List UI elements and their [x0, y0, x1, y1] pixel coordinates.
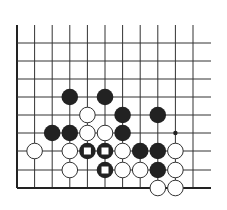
- white-stone[interactable]: [168, 180, 184, 196]
- black-stone[interactable]: [114, 107, 131, 124]
- stone-body: [115, 143, 131, 159]
- stone-body: [97, 125, 113, 141]
- stone-body: [132, 162, 148, 178]
- black-stone[interactable]: [150, 107, 167, 124]
- stone-body: [62, 162, 78, 178]
- board-grid: [17, 25, 211, 188]
- black-stone[interactable]: [132, 143, 149, 160]
- stone-body: [97, 89, 114, 106]
- black-stone[interactable]: [97, 89, 114, 106]
- white-stone[interactable]: [27, 143, 43, 159]
- stone-body: [150, 107, 167, 124]
- white-stone[interactable]: [115, 143, 131, 159]
- black-stone[interactable]: [114, 125, 131, 142]
- white-stone[interactable]: [168, 143, 184, 159]
- stone-body: [150, 143, 167, 160]
- square-marker-icon: [102, 148, 109, 155]
- star-point-dot: [173, 131, 177, 135]
- stone-body: [62, 89, 79, 106]
- stone-body: [168, 162, 184, 178]
- board-markers: [173, 131, 177, 135]
- black-stone-marked[interactable]: [97, 143, 114, 160]
- stone-body: [114, 107, 131, 124]
- stone-body: [150, 180, 166, 196]
- black-stone[interactable]: [62, 125, 79, 142]
- white-stone[interactable]: [62, 143, 78, 159]
- go-board: [0, 0, 227, 210]
- black-stone[interactable]: [62, 89, 79, 106]
- stone-body: [80, 107, 96, 123]
- stone-body: [114, 125, 131, 142]
- white-stone[interactable]: [132, 162, 148, 178]
- white-stone[interactable]: [80, 107, 96, 123]
- stone-body: [62, 143, 78, 159]
- white-stone[interactable]: [115, 162, 131, 178]
- white-stone[interactable]: [62, 162, 78, 178]
- stone-body: [168, 143, 184, 159]
- stone-body: [80, 125, 96, 141]
- black-stone-marked[interactable]: [79, 143, 96, 160]
- black-stone[interactable]: [150, 143, 167, 160]
- black-stone-marked[interactable]: [97, 162, 114, 179]
- stone-body: [62, 125, 79, 142]
- square-marker-icon: [102, 167, 109, 174]
- stone-body: [27, 143, 43, 159]
- stone-body: [132, 143, 149, 160]
- stone-body: [150, 162, 167, 179]
- black-stone[interactable]: [150, 162, 167, 179]
- white-stone[interactable]: [97, 125, 113, 141]
- white-stone[interactable]: [150, 180, 166, 196]
- stone-body: [115, 162, 131, 178]
- stone-body: [168, 180, 184, 196]
- white-stone[interactable]: [168, 162, 184, 178]
- black-stone[interactable]: [44, 125, 61, 142]
- stone-body: [44, 125, 61, 142]
- square-marker-icon: [84, 148, 91, 155]
- white-stone[interactable]: [80, 125, 96, 141]
